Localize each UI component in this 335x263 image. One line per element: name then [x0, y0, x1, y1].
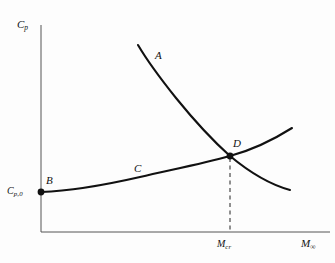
- chart-plot-area: [0, 0, 335, 263]
- y-tick-label-cp0: Cp,0: [7, 186, 23, 196]
- x-axis-label-sub: ∞: [310, 242, 316, 251]
- annotation-label-c: C: [134, 163, 141, 174]
- point-d-marker: [227, 153, 234, 160]
- x-tick-label-mcr: Mcr: [217, 239, 231, 249]
- x-axis-label: M∞: [301, 238, 316, 249]
- chart-figure: Cp M∞ Mcr Cp,0 A B C D: [0, 0, 335, 263]
- curve-a-path: [138, 45, 290, 190]
- y-axis-label-sub: p: [24, 23, 28, 32]
- x-axis-label-base: M: [301, 237, 310, 249]
- point-b-marker: [38, 189, 45, 196]
- y-tick-label-cp0-sub: p,0: [14, 190, 23, 197]
- curve-c-path: [41, 128, 292, 192]
- annotation-label-b: B: [46, 175, 53, 186]
- annotation-label-a: A: [155, 50, 162, 61]
- y-axis-label: Cp: [17, 19, 28, 30]
- annotation-label-d: D: [233, 138, 241, 149]
- y-tick-label-cp0-base: C: [7, 185, 14, 196]
- x-tick-label-mcr-sub: cr: [225, 243, 231, 250]
